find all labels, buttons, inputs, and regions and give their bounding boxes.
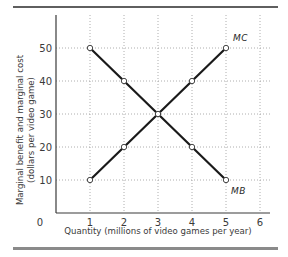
y-tick-label: 10 [39, 175, 52, 186]
mc-curve-label: MC [233, 33, 248, 43]
tick-labels: 01234561020304050 [37, 43, 263, 229]
x-tick-label: 0 [37, 217, 43, 228]
data-point-mb [223, 177, 228, 182]
y-tick-label: 20 [39, 142, 52, 153]
data-point-mc [223, 45, 228, 50]
y-axis-label-units: (dollars per video game) [26, 77, 36, 183]
axes [56, 15, 270, 213]
y-axis-label: Marginal benefit and marginal cost [15, 54, 25, 205]
data-point-mb [189, 144, 194, 149]
data-point-mb [87, 45, 92, 50]
data-point-mb [121, 78, 126, 83]
y-tick-label: 30 [39, 109, 52, 120]
y-tick-label: 50 [39, 43, 52, 54]
y-tick-label: 40 [39, 76, 52, 87]
x-axis-label: Quantity (millions of video games per ye… [64, 226, 251, 236]
bottom-bar [13, 247, 278, 250]
data-point-mc [87, 177, 92, 182]
data-point-mc [121, 144, 126, 149]
data-point-mb [155, 111, 160, 116]
grid-lines [56, 15, 270, 213]
mb-curve-label: MB [231, 186, 246, 196]
x-tick-label: 6 [257, 217, 263, 228]
data-point-mc [189, 78, 194, 83]
